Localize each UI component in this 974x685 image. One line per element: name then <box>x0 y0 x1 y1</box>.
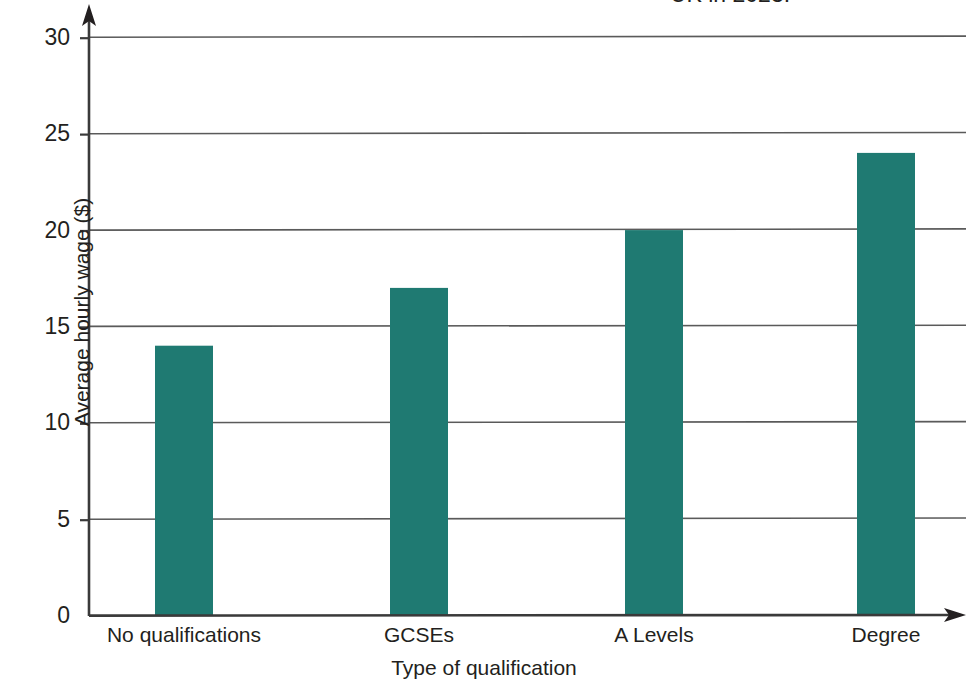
y-tick-label-25: 25 <box>14 122 70 145</box>
bars <box>155 153 915 616</box>
x-tick-label-no-qualifications: No qualifications <box>64 622 304 648</box>
x-axis-title: Type of qualification <box>89 656 879 680</box>
bar-degree <box>857 153 915 616</box>
bar-no-qualifications <box>155 346 213 616</box>
y-tick-label-20: 20 <box>14 219 70 242</box>
gridline-5 <box>89 518 966 519</box>
y-tick-label-15: 15 <box>14 315 70 338</box>
bar-gcses <box>390 288 448 616</box>
bar-a-levels <box>625 230 683 615</box>
x-tick-label-degree: Degree <box>766 622 974 648</box>
gridline-25 <box>89 133 966 134</box>
x-tick-label-gcses: GCSEs <box>299 622 539 648</box>
gridlines <box>89 36 966 519</box>
y-tick-label-5: 5 <box>14 508 70 531</box>
plot-area <box>0 0 974 685</box>
y-tick-label-0: 0 <box>14 604 70 627</box>
y-tick-label-30: 30 <box>14 26 70 49</box>
gridline-10 <box>89 422 966 423</box>
x-axis <box>89 608 966 622</box>
x-tick-label-a-levels: A Levels <box>534 622 774 648</box>
bar-chart-figure: UK in 2023. 30 25 20 15 <box>0 0 974 685</box>
gridline-15 <box>89 325 966 326</box>
y-axis-title: Average hourly wage ($) <box>70 132 94 492</box>
gridline-30 <box>89 36 966 37</box>
y-tick-label-10: 10 <box>14 411 70 434</box>
gridline-20 <box>89 229 966 230</box>
